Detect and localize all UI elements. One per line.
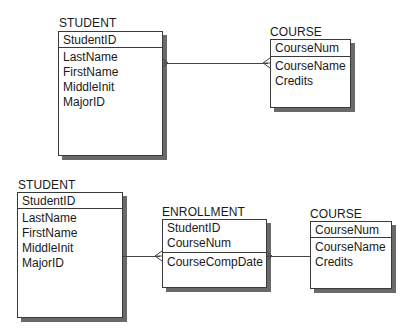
pk-field: CourseNum: [275, 41, 346, 55]
relationship-line-student-course: [167, 63, 268, 64]
entity-title-student-1: STUDENT: [59, 17, 116, 29]
attribute-section: CourseName Credits: [271, 57, 350, 89]
pk-field: StudentID: [63, 33, 158, 47]
pk-field: CourseNum: [315, 223, 387, 237]
attribute-field: LastName: [22, 211, 118, 226]
pk-field: StudentID: [167, 221, 262, 236]
primary-key-section: CourseNum: [311, 222, 391, 238]
entity-enrollment: StudentID CourseNum CourseCompDate: [162, 219, 267, 288]
attribute-field: MajorID: [63, 95, 158, 110]
attribute-field: CourseName: [315, 240, 387, 255]
attribute-field: FirstName: [22, 226, 118, 241]
primary-key-section: CourseNum: [271, 40, 350, 57]
relationship-line-enrollment-course: [267, 256, 310, 257]
attribute-field: CourseCompDate: [167, 255, 262, 270]
entity-student-1: StudentID LastName FirstName MiddleInit …: [58, 31, 163, 156]
pk-field: StudentID: [22, 194, 118, 208]
attribute-field: Credits: [315, 255, 387, 270]
crows-foot-icon: [161, 57, 169, 70]
entity-title-student-2: STUDENT: [18, 179, 75, 191]
crows-foot-icon: [155, 250, 163, 263]
primary-key-section: StudentID CourseNum: [163, 220, 266, 253]
attribute-section: LastName FirstName MiddleInit MajorID: [59, 48, 162, 110]
attribute-field: MiddleInit: [63, 80, 158, 95]
attribute-section: CourseName Credits: [311, 238, 391, 270]
entity-title-course-2: COURSE: [310, 208, 362, 220]
attribute-section: CourseCompDate: [163, 253, 266, 270]
entity-course-1: CourseNum CourseName Credits: [270, 39, 351, 108]
crows-foot-icon: [265, 250, 273, 263]
primary-key-section: StudentID: [18, 193, 122, 209]
attribute-field: Credits: [275, 74, 346, 89]
attribute-field: CourseName: [275, 59, 346, 74]
crows-foot-icon: [263, 57, 271, 70]
primary-key-section: StudentID: [59, 32, 162, 48]
entity-title-course-1: COURSE: [270, 26, 322, 38]
pk-field: CourseNum: [167, 236, 262, 251]
attribute-section: LastName FirstName MiddleInit MajorID: [18, 209, 122, 271]
attribute-field: MiddleInit: [22, 241, 118, 256]
entity-student-2: StudentID LastName FirstName MiddleInit …: [17, 192, 123, 318]
entity-course-2: CourseNum CourseName Credits: [310, 221, 392, 289]
attribute-field: MajorID: [22, 256, 118, 271]
attribute-field: FirstName: [63, 65, 158, 80]
entity-title-enrollment: ENROLLMENT: [162, 206, 245, 218]
attribute-field: LastName: [63, 50, 158, 65]
